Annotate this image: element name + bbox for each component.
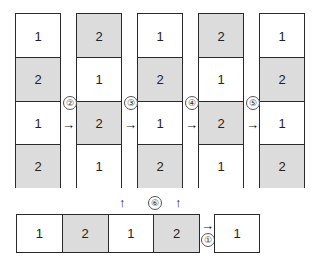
step-label-3: ③ <box>124 96 138 110</box>
cell: 1 <box>77 57 121 101</box>
step-label-6: ⑥ <box>148 196 162 210</box>
cell: 1 <box>77 144 121 188</box>
cell: 1 <box>108 215 154 252</box>
cell: 1 <box>260 101 304 145</box>
cell: 1 <box>199 57 243 101</box>
cell: 2 <box>260 144 304 188</box>
up-arrow-icon: ↑ <box>175 196 182 209</box>
column-5: 1 2 1 2 <box>259 13 305 188</box>
column-3: 1 2 1 2 <box>137 13 183 188</box>
cell: 1 <box>199 144 243 188</box>
right-arrow-icon: → <box>124 118 137 131</box>
cell: 2 <box>62 215 108 252</box>
column-1: 1 2 1 2 <box>15 13 61 188</box>
step-label-1: ① <box>201 233 215 247</box>
right-arrow-icon: → <box>185 118 198 131</box>
cell: 2 <box>138 144 182 188</box>
cell: 2 <box>77 14 121 58</box>
bottom-row: 1 2 1 2 <box>16 214 200 253</box>
cell: 1 <box>17 215 62 252</box>
step-label-2: ② <box>63 96 77 110</box>
cell: 2 <box>77 101 121 145</box>
right-arrow-icon: → <box>62 118 75 131</box>
cell: 1 <box>138 14 182 58</box>
single-box: 1 <box>214 214 260 253</box>
cell: 2 <box>16 144 60 188</box>
cell: 1 <box>16 101 60 145</box>
cell: 1 <box>138 101 182 145</box>
cell: 2 <box>16 57 60 101</box>
cell: 2 <box>199 101 243 145</box>
step-label-4: ④ <box>185 96 199 110</box>
cell: 2 <box>153 215 199 252</box>
cell: 1 <box>16 14 60 58</box>
step-label-5: ⑤ <box>246 96 260 110</box>
up-arrow-icon: ↑ <box>119 196 126 209</box>
cell: 2 <box>260 57 304 101</box>
right-arrow-icon: → <box>246 118 259 131</box>
column-4: 2 1 2 1 <box>198 13 244 188</box>
column-2: 2 1 2 1 <box>76 13 122 188</box>
cell: 2 <box>199 14 243 58</box>
cell: 2 <box>138 57 182 101</box>
right-arrow-icon: → <box>201 219 214 232</box>
cell: 1 <box>260 14 304 58</box>
